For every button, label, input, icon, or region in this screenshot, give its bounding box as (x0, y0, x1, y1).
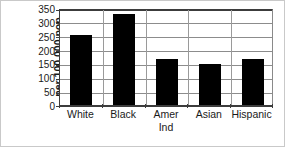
y-tick-label: 200 (38, 45, 55, 56)
x-category-label-line: Ind (145, 121, 188, 134)
bar-series (60, 10, 272, 105)
x-category-label: Hispanic (230, 108, 273, 121)
x-category-label: White (59, 108, 102, 121)
x-axis-category-labels: WhiteBlackAmerIndAsianHispanic (59, 108, 273, 146)
y-tick-label: 100 (38, 73, 55, 84)
x-tick-mark (102, 104, 103, 108)
y-tick-label: 0 (49, 101, 55, 112)
x-category-label: Black (102, 108, 145, 121)
bar-slot (103, 10, 146, 105)
x-category-label-line: Hispanic (231, 108, 271, 120)
bar-chart-figure: per 100,000 pop 050100150200250300350 Wh… (0, 0, 285, 147)
bar-slot (231, 10, 274, 105)
gridline (60, 106, 272, 107)
bar-slot (188, 10, 231, 105)
x-category-label-line: Asian (196, 108, 222, 120)
bar (156, 59, 178, 105)
x-category-label-line: Black (110, 108, 136, 120)
bar (199, 64, 221, 105)
bar (70, 35, 92, 105)
x-category-label: AmerInd (145, 108, 188, 134)
bar (242, 59, 264, 105)
bar-slot (146, 10, 189, 105)
y-tick-label: 350 (38, 4, 55, 15)
x-tick-mark (187, 104, 188, 108)
x-category-label-line: White (67, 108, 94, 120)
x-tick-mark (272, 104, 273, 108)
y-tick-label: 300 (38, 17, 55, 28)
y-tick-label: 250 (38, 31, 55, 42)
y-tick-label: 150 (38, 59, 55, 70)
x-tick-mark (230, 104, 231, 108)
y-tick-label: 50 (44, 87, 55, 98)
plot-area (59, 9, 273, 106)
x-category-label: Asian (187, 108, 230, 121)
x-tick-mark (145, 104, 146, 108)
bar (113, 14, 135, 105)
bar-slot (60, 10, 103, 105)
y-axis-tick-labels: 050100150200250300350 (25, 9, 55, 106)
x-tick-mark (59, 104, 60, 108)
x-category-label-line: Amer (153, 108, 178, 120)
